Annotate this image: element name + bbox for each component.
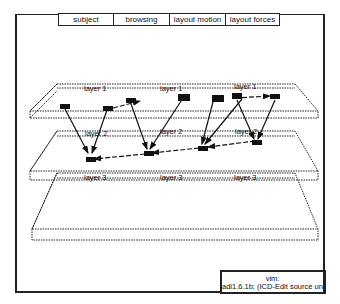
- layer-1-label: layer 1: [234, 82, 257, 91]
- layer-2-label: layer 2: [85, 129, 108, 138]
- graph-node[interactable]: [103, 106, 113, 111]
- layer-1-label: layer 1: [84, 84, 107, 93]
- layer-3-label: layer 3: [84, 173, 107, 182]
- layer-3-label: layer 3: [234, 173, 257, 182]
- graph-node[interactable]: [86, 157, 96, 162]
- graph-node[interactable]: [270, 94, 280, 99]
- graph-node[interactable]: [60, 104, 70, 109]
- layer-2-label: layer 2: [235, 127, 258, 136]
- graph-node[interactable]: [144, 151, 154, 156]
- graph-node[interactable]: [126, 98, 136, 103]
- layered-graph-canvas[interactable]: layer 1 layer 1 layer 1 layer 2 layer 2 …: [0, 0, 340, 304]
- graph-node[interactable]: [212, 95, 224, 102]
- graph-node[interactable]: [178, 94, 190, 101]
- graph-node[interactable]: [198, 146, 208, 151]
- status-line-2: adi1.6.1b; (ICD-Edit source unde: [222, 283, 323, 291]
- layer-3-label: layer 3: [160, 173, 183, 182]
- layer-1-label: layer 1: [160, 84, 183, 93]
- graph-node[interactable]: [232, 93, 242, 99]
- layer-3-plane: [32, 173, 318, 240]
- graph-node[interactable]: [252, 140, 262, 145]
- status-panel: vim: adi1.6.1b; (ICD-Edit source unde: [220, 270, 326, 294]
